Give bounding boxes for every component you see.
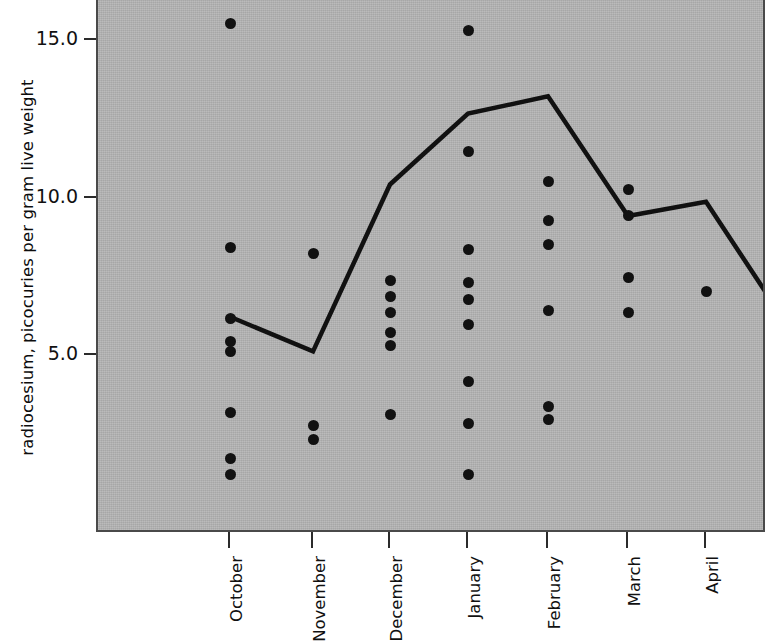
data-point (225, 18, 236, 29)
data-point (225, 453, 236, 464)
data-point (463, 244, 474, 255)
data-point (463, 376, 474, 387)
y-tick-label: 10.0 (0, 185, 78, 207)
data-point (308, 420, 319, 431)
data-point (463, 469, 474, 480)
data-point (463, 294, 474, 305)
plot-texture (98, 0, 763, 530)
data-point (543, 414, 554, 425)
y-tick-label: 5.0 (0, 342, 78, 364)
x-tick-mark (388, 532, 390, 548)
data-point (463, 277, 474, 288)
data-point (463, 319, 474, 330)
data-point (623, 307, 634, 318)
data-point (385, 275, 396, 286)
data-point (225, 346, 236, 357)
data-point (543, 176, 554, 187)
data-point (385, 307, 396, 318)
monthly-mean-line (230, 96, 765, 351)
x-tick-label-march: March (625, 556, 644, 606)
x-tick-mark (311, 532, 313, 548)
data-point (225, 313, 236, 324)
data-point (308, 248, 319, 259)
x-tick-mark (704, 532, 706, 548)
data-point (385, 291, 396, 302)
data-point (225, 242, 236, 253)
data-point (623, 184, 634, 195)
data-point (623, 210, 634, 221)
data-point (463, 418, 474, 429)
data-point (385, 327, 396, 338)
x-tick-label-december: December (387, 556, 406, 642)
data-point (308, 434, 319, 445)
data-point (225, 407, 236, 418)
y-tick-label: 15.0 (0, 27, 78, 49)
mean-line-overlay (98, 0, 765, 532)
data-point (463, 25, 474, 36)
data-point (543, 305, 554, 316)
data-point (701, 286, 712, 297)
x-tick-label-october: October (227, 556, 246, 622)
data-point (385, 409, 396, 420)
data-point (543, 215, 554, 226)
data-point (543, 239, 554, 250)
plot-area (96, 0, 765, 532)
x-tick-mark (228, 532, 230, 548)
data-point (385, 340, 396, 351)
x-tick-label-april: April (703, 556, 722, 594)
x-tick-label-january: January (465, 556, 484, 619)
data-point (543, 401, 554, 412)
x-tick-mark (546, 532, 548, 548)
x-tick-mark (466, 532, 468, 548)
data-point (463, 146, 474, 157)
x-tick-label-november: November (310, 556, 329, 642)
y-axis-label: radiocesium, picocuries per gram live we… (18, 8, 37, 528)
x-tick-label-february: February (545, 556, 564, 629)
x-tick-mark (626, 532, 628, 548)
data-point (623, 272, 634, 283)
data-point (225, 469, 236, 480)
chart-figure: radiocesium, picocuries per gram live we… (0, 0, 773, 643)
